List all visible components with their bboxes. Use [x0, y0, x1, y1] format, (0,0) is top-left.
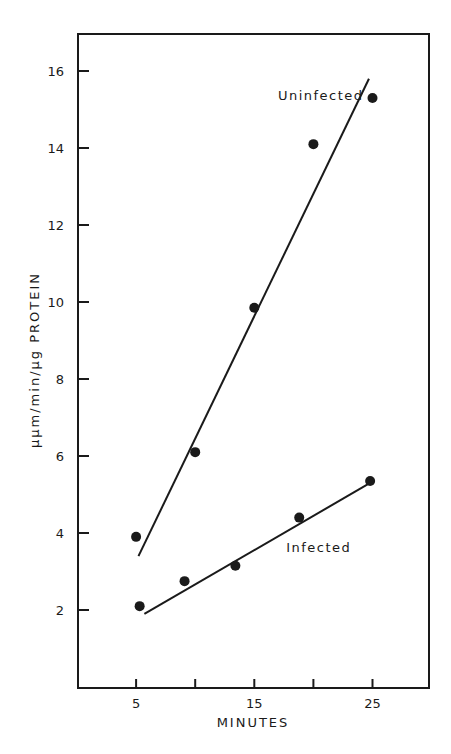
x-tick-label: 15 [246, 696, 263, 711]
plot-frame [78, 34, 429, 688]
uninfected-data-point [131, 532, 141, 542]
x-axis-title: MINUTES [217, 715, 290, 730]
x-tick-label: 5 [132, 696, 140, 711]
x-tick-label: 25 [364, 696, 381, 711]
uninfected-fit-line [138, 79, 368, 556]
series-labels: UninfectedInfected [278, 88, 364, 555]
y-axis-ticks: 246810121416 [47, 64, 89, 618]
uninfected-data-point [249, 303, 259, 313]
y-tick-label: 12 [47, 218, 64, 233]
y-axis-title: μμm/min/μg PROTEIN [27, 272, 42, 448]
y-tick-label: 2 [56, 603, 64, 618]
infected-data-point [135, 601, 145, 611]
infected-data-point [180, 576, 190, 586]
infected-series-label: Infected [286, 540, 351, 555]
uninfected-data-point [368, 93, 378, 103]
y-tick-label: 16 [47, 64, 64, 79]
uninfected-data-point [190, 447, 200, 457]
fit-lines [138, 79, 370, 614]
infected-data-point [230, 561, 240, 571]
y-tick-label: 10 [47, 295, 64, 310]
y-tick-label: 6 [56, 449, 64, 464]
uninfected-data-point [308, 139, 318, 149]
y-tick-label: 8 [56, 372, 64, 387]
data-points [131, 93, 377, 611]
infected-data-point [365, 476, 375, 486]
y-tick-label: 4 [56, 526, 64, 541]
x-axis-ticks: 51525 [132, 679, 381, 711]
chart-canvas: 246810121416 51525 UninfectedInfected MI… [0, 0, 451, 754]
uninfected-series-label: Uninfected [278, 88, 364, 103]
infected-data-point [294, 513, 304, 523]
y-tick-label: 14 [47, 141, 64, 156]
